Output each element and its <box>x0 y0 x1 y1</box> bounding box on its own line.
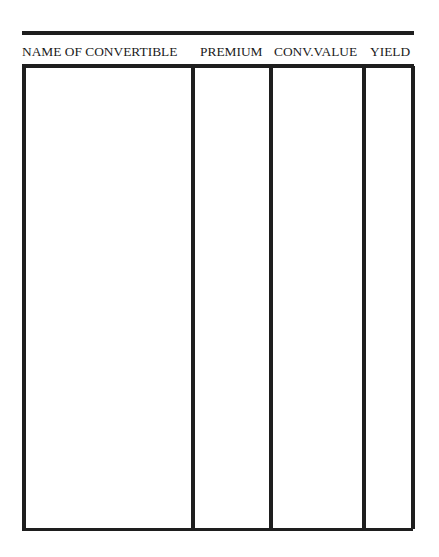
column-divider-2 <box>269 66 273 530</box>
column-header-yield: YIELD <box>370 44 410 60</box>
column-divider-1 <box>191 66 195 530</box>
left-border-line <box>22 66 26 530</box>
bottom-rule <box>22 528 413 531</box>
top-rule <box>22 31 414 35</box>
column-header-premium: PREMIUM <box>200 44 263 60</box>
column-premium-cells <box>195 68 269 528</box>
column-divider-3 <box>362 66 366 530</box>
column-header-name-of-convertible: NAME OF CONVERTIBLE <box>22 44 177 60</box>
column-header-conv-value: CONV.VALUE <box>274 44 357 60</box>
column-name-of-convertible-cells <box>26 68 191 528</box>
column-yield-cells <box>366 68 411 528</box>
right-border-line <box>411 66 415 529</box>
column-conv-value-cells <box>273 68 362 528</box>
